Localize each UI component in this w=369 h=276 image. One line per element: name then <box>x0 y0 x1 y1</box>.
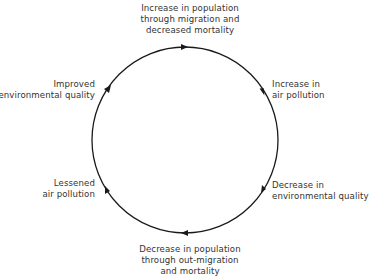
node-text-line: decreased mortality <box>120 25 260 36</box>
node-text-line: environmental quality <box>272 191 369 202</box>
node-improved-environmental-quality: Improved environmental quality <box>0 79 95 101</box>
node-text-line: Decrease in <box>272 180 369 191</box>
node-text-line: through out-migration <box>120 255 260 266</box>
node-decrease-population: Decrease in population through out-migra… <box>120 244 260 276</box>
node-decrease-environmental-quality: Decrease in environmental quality <box>272 180 369 202</box>
node-text-line: through migration and <box>120 14 260 25</box>
node-text-line: Increase in population <box>120 3 260 14</box>
node-text-line: and mortality <box>120 266 260 276</box>
node-text-line: environmental quality <box>0 90 95 101</box>
node-increase-population: Increase in population through migration… <box>120 3 260 36</box>
node-text-line: Increase in <box>272 79 325 90</box>
arrow-lower-left-icon <box>105 186 110 194</box>
node-lessened-air-pollution: Lessened air pollution <box>42 178 95 200</box>
node-increase-air-pollution: Increase in air pollution <box>272 79 325 101</box>
node-text-line: Lessened <box>42 178 95 189</box>
arrow-top-icon <box>181 44 188 50</box>
node-text-line: air pollution <box>42 189 95 200</box>
arrow-icons <box>104 44 266 236</box>
node-text-line: Improved <box>0 79 95 90</box>
node-text-line: Decrease in population <box>120 244 260 255</box>
arrow-bottom-icon <box>181 230 188 236</box>
node-text-line: air pollution <box>272 90 325 101</box>
